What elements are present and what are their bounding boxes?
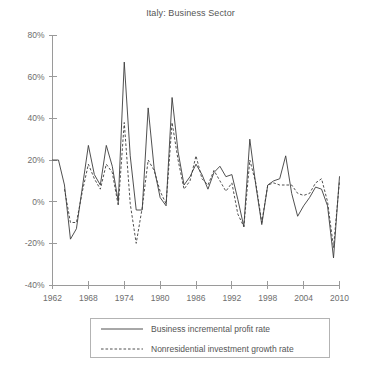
series-line-2 [64, 123, 339, 248]
y-tick-label: -20% [25, 238, 45, 248]
x-tick-label: 1968 [79, 293, 98, 303]
series-group [53, 62, 340, 258]
chart-figure: Italy: Business Sector -40%-20%0%20%40%6… [0, 0, 381, 369]
y-axis: -40%-20%0%20%40%60%80% [25, 30, 57, 290]
y-tick-label: 40% [27, 113, 44, 123]
x-tick-label: 1998 [258, 293, 277, 303]
legend-item-dashed: Nonresidential investment growth rate [91, 339, 329, 359]
y-tick-label: 20% [27, 155, 44, 165]
legend-label-solid: Business incremental profit rate [151, 324, 270, 334]
chart-plot-area: -40%-20%0%20%40%60%80% 19621968197419801… [0, 0, 381, 369]
y-tick-label: 60% [27, 72, 44, 82]
x-tick-label: 2004 [294, 293, 313, 303]
series-line-1 [53, 62, 340, 258]
x-tick-label: 1974 [115, 293, 134, 303]
y-tick-label: -40% [25, 280, 45, 290]
x-tick-label: 1992 [222, 293, 241, 303]
legend-label-dashed: Nonresidential investment growth rate [151, 344, 294, 354]
x-tick-label: 1962 [43, 293, 62, 303]
legend-line-solid-icon [101, 324, 143, 334]
x-axis: 196219681974198019861992199820042010 [43, 281, 349, 303]
y-tick-label: 80% [27, 30, 44, 40]
x-tick-label: 1980 [151, 293, 170, 303]
legend-item-solid: Business incremental profit rate [91, 319, 329, 339]
legend-line-dashed-icon [101, 344, 143, 354]
x-tick-label: 1986 [187, 293, 206, 303]
chart-legend: Business incremental profit rate Nonresi… [90, 318, 330, 358]
y-tick-label: 0% [32, 197, 45, 207]
x-tick-label: 2010 [330, 293, 349, 303]
